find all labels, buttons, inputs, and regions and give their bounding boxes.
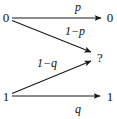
node-output-zero: 0: [107, 11, 114, 24]
node-input-one: 1: [3, 90, 10, 103]
node-output-one: 1: [107, 90, 114, 103]
binary-erasure-channel-diagram: 0 1 0 ? 1 p 1−p 1−q q: [0, 0, 117, 119]
node-input-zero: 0: [3, 11, 10, 24]
edge-label-one-to-one: q: [75, 103, 81, 115]
edge-label-zero-to-erasure: 1−p: [65, 25, 85, 37]
node-output-erasure: ?: [97, 51, 103, 64]
edge-label-one-to-erasure: 1−q: [37, 57, 57, 69]
edge-label-zero-to-zero: p: [75, 1, 81, 13]
